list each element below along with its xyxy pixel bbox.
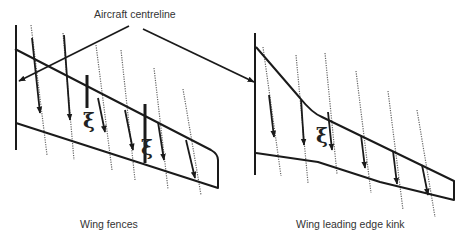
- label-aircraft-centreline: Aircraft centreline: [94, 8, 176, 20]
- pointer-to-right-centreline: [143, 29, 254, 82]
- streamlines-left: [31, 25, 201, 195]
- vortex-symbol-2: ξ: [141, 136, 153, 160]
- vortex-symbol-1: ξ: [83, 109, 95, 133]
- caption-wing-fences: Wing fences: [80, 218, 138, 230]
- flow-arrows-right: [269, 95, 428, 195]
- centreline-pointers: [19, 26, 254, 82]
- wing-diagram: ξ ξ ξ: [0, 0, 465, 244]
- caption-wing-leading-edge-kink: Wing leading edge kink: [296, 218, 405, 230]
- streamlines-right: [263, 47, 435, 217]
- flow-arrows-left: [32, 35, 195, 178]
- pointer-to-left-centreline: [19, 26, 129, 81]
- panel-wing-leading-edge-kink: ξ: [255, 33, 454, 217]
- wing-fences: [87, 75, 145, 163]
- vortex-symbol-kink: ξ: [316, 124, 328, 148]
